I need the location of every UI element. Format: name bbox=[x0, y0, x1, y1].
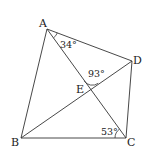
point-label-a: A bbox=[38, 17, 48, 30]
angle-arc-dac bbox=[54, 33, 58, 38]
angle-label-aed: 93° bbox=[88, 68, 105, 79]
point-label-d: D bbox=[133, 54, 142, 67]
geometry-diagram: A B C D E 34° 93° 53° bbox=[0, 0, 149, 151]
segment-cd bbox=[126, 61, 132, 138]
angle-arc-aed bbox=[84, 81, 98, 85]
angle-label-acb: 53° bbox=[101, 126, 118, 137]
segment-ab bbox=[21, 29, 47, 138]
point-label-c: C bbox=[127, 136, 135, 149]
point-label-b: B bbox=[11, 136, 19, 149]
point-label-e: E bbox=[76, 83, 84, 96]
angle-label-dac: 34° bbox=[60, 39, 77, 50]
